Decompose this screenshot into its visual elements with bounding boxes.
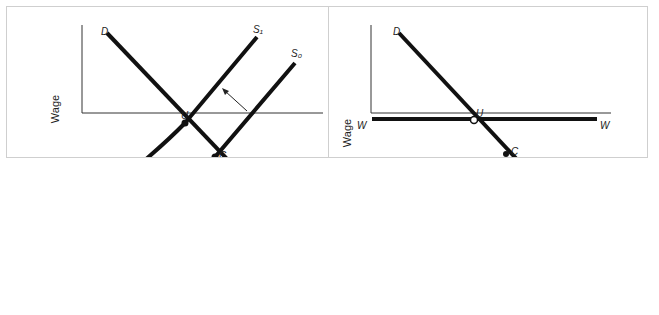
label-c: C: [511, 146, 519, 157]
label-d-top: D: [393, 26, 400, 37]
label-w-left: W: [357, 120, 368, 131]
panel-restricting-supply: D S₁ S₀ U C Wage: [6, 6, 330, 158]
label-u: U: [476, 108, 484, 119]
chart-fixing-wage: D W W U C: [329, 7, 647, 157]
panel-fixing-wage: D W W U C Wage: [328, 6, 648, 158]
label-s1-top: S₁: [253, 24, 263, 35]
shift-arrow-top: [225, 91, 247, 111]
label-d-top: D: [101, 26, 108, 37]
chart-restricting-supply: D S₁ S₀ U C: [7, 7, 329, 157]
y-axis-label: Wage: [341, 119, 353, 147]
label-u: U: [181, 110, 189, 121]
supply-curve-s0: [115, 63, 295, 157]
label-s0-top: S₀: [291, 48, 302, 59]
label-w-right: W: [600, 120, 611, 131]
y-axis-label: Wage: [49, 95, 61, 123]
point-c: [503, 151, 509, 157]
demand-curve: [399, 33, 595, 157]
label-c: C: [219, 150, 227, 157]
